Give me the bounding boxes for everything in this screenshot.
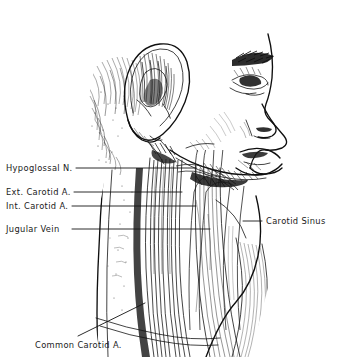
label-external-carotid-artery: Ext. Carotid A. <box>6 187 71 197</box>
anatomical-illustration: Hypoglossal N. Ext. Carotid A. Int. Caro… <box>0 0 337 357</box>
label-jugular-vein: Jugular Vein <box>5 224 60 234</box>
illustration-canvas: Hypoglossal N. Ext. Carotid A. Int. Caro… <box>0 0 337 357</box>
label-common-carotid-artery: Common Carotid A. <box>35 340 122 350</box>
label-carotid-sinus: Carotid Sinus <box>266 216 326 226</box>
label-hypoglossal-nerve: Hypoglossal N. <box>6 163 73 173</box>
label-internal-carotid-artery: Int. Carotid A. <box>6 201 68 211</box>
